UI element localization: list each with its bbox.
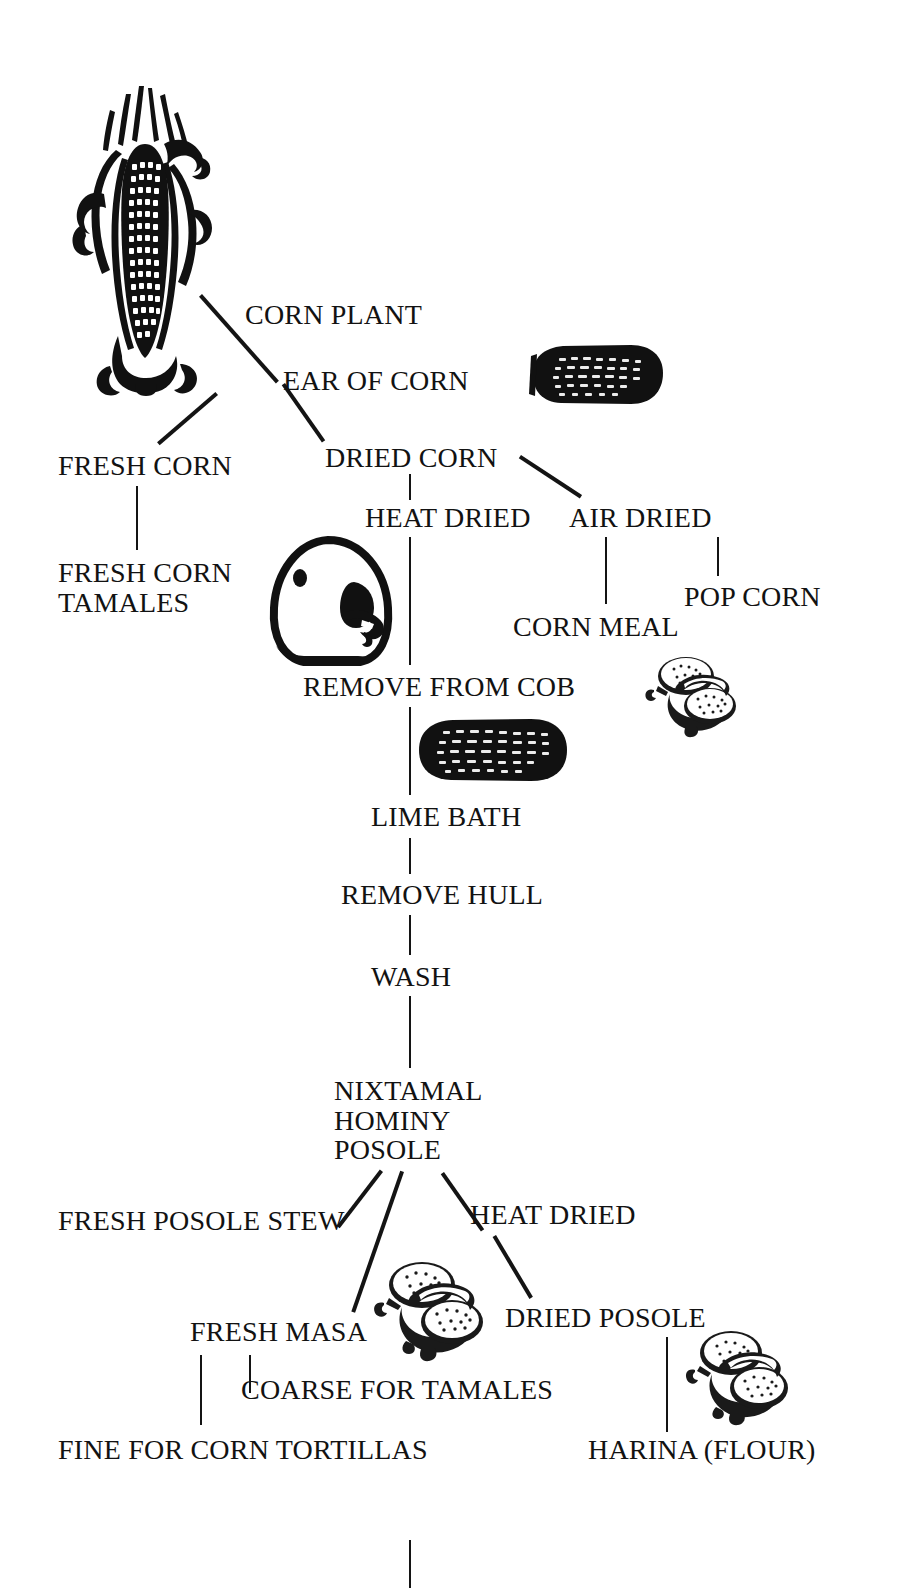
corn-processing-flowchart: CORN PLANTEAR OF CORNDRIED CORNFRESH COR… [0,0,900,1588]
connector-heat-dried-to-dried-posole [493,1235,533,1299]
connector-air-dried-to-corn-meal [605,537,607,604]
node-coarse-for-tamales: COARSE FOR TAMALES [241,1375,553,1405]
node-ear-of-corn: EAR OF CORN [283,366,469,396]
connector-remove-cob-to-lime-bath [409,707,411,795]
node-air-dried: AIR DRIED [569,503,712,533]
dried-corn-ear-illustration [515,340,667,410]
corn-plant-with-husk-illustration [44,78,234,398]
connector-fresh-corn-to-tamales [136,486,138,550]
node-lime-bath: LIME BATH [371,802,521,832]
node-pop-corn: POP CORN [684,582,821,612]
node-heat-dried-2: HEAT DRIED [470,1200,636,1230]
connector-air-dried-to-pop-corn [717,537,719,576]
node-dried-posole: DRIED POSOLE [505,1303,706,1333]
node-fresh-posole-stew: FRESH POSOLE STEW [58,1206,345,1236]
connector-dried-corn-to-air-dried [519,455,582,498]
connector-wash-to-nixtamal [409,996,411,1068]
connector-ear-to-fresh-corn [157,392,218,445]
connector-heat-dried-to-remove-cob [409,537,411,665]
connector-dried-posole-to-harina [666,1337,668,1432]
node-fresh-masa: FRESH MASA [190,1317,367,1347]
node-fresh-corn: FRESH CORN [58,451,232,481]
node-remove-hull: REMOVE HULL [341,880,543,910]
node-harina-flour: HARINA (FLOUR) [588,1435,816,1465]
tortillas-with-filling-illustration [640,650,748,738]
tortillas-with-filling-illustration [368,1255,498,1365]
node-fine-for-corn-tortillas: FINE FOR CORN TORTILLAS [58,1435,428,1465]
connector-dried-corn-to-heat-dried [409,474,411,500]
node-remove-from-cob: REMOVE FROM COB [303,672,575,702]
node-corn-meal: CORN MEAL [513,612,679,642]
connector-remove-hull-to-wash [409,915,411,955]
metate-grinding-stone-illustration [268,534,394,670]
dried-corn-ear-illustration [413,714,571,786]
node-corn-plant: CORN PLANT [245,300,422,330]
node-nixtamal-hominy-posole: NIXTAMAL HOMINY POSOLE [334,1076,483,1165]
node-fresh-corn-tamales: FRESH CORN TAMALES [58,558,232,617]
node-dried-corn: DRIED CORN [325,443,497,473]
tortillas-with-filling-illustration [680,1325,802,1429]
connector-lime-bath-to-remove-hull [409,838,411,874]
connector-bottom-stub [409,1540,411,1588]
node-heat-dried-1: HEAT DRIED [365,503,531,533]
connector-fresh-masa-to-fine-tortillas [200,1355,202,1425]
node-wash: WASH [371,962,451,992]
